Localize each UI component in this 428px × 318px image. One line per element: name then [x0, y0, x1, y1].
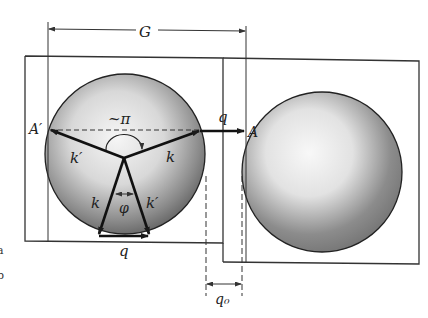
k-prime-upper-label: k′ — [70, 149, 83, 167]
pi-label: ~π — [108, 110, 132, 128]
g-dimension-left — [49, 29, 136, 30]
A-prime-label: A′ — [27, 121, 43, 137]
k-prime-lower-label: k′ — [146, 194, 159, 212]
q0-label: q₀ — [215, 291, 230, 307]
q-lower-label: q — [119, 242, 129, 260]
margin-mark-b: b — [0, 269, 4, 282]
margin-mark-a: a — [0, 244, 4, 257]
g-dimension-right — [158, 30, 245, 31]
q-upper-label: q — [218, 108, 228, 126]
phi-label: φ — [119, 200, 129, 216]
scattering-diagram: G ~π A′ A q k′ k k k′ φ q q₀ a b — [0, 0, 428, 318]
right-fermi-sphere — [242, 92, 402, 252]
A-label: A — [246, 124, 258, 140]
k-lower-label: k — [91, 194, 100, 212]
k-upper-label: k — [166, 148, 175, 166]
g-label: G — [139, 23, 151, 41]
